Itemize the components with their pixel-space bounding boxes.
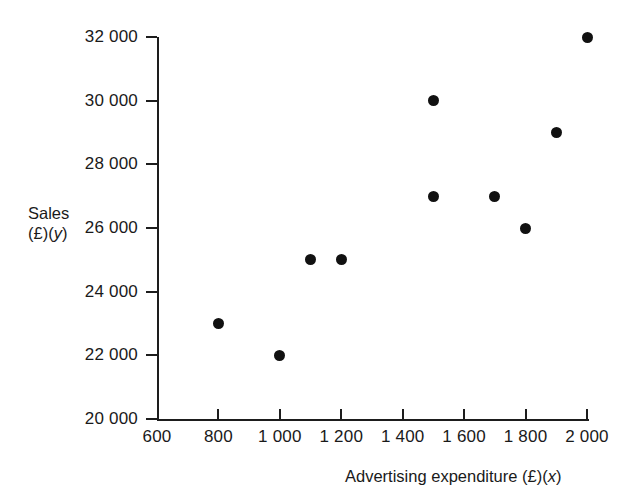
y-axis-title-line1: Sales	[28, 203, 69, 223]
x-axis-tick	[525, 409, 527, 420]
y-axis-title: Sales (£)(y)	[28, 203, 69, 243]
x-axis-tick	[340, 409, 342, 420]
data-point	[582, 32, 593, 43]
x-axis-tick	[463, 409, 465, 420]
y-axis-tick	[146, 418, 157, 420]
y-axis-title-line2: (£)(y)	[28, 223, 69, 243]
data-point	[274, 350, 285, 361]
x-axis-title-close: )	[556, 467, 562, 485]
scatter-chart: 20 00022 00024 00026 00028 00030 00032 0…	[0, 0, 630, 503]
y-axis-variable: y	[54, 224, 62, 242]
x-axis-title: Advertising expenditure (£)(x)	[345, 466, 561, 486]
y-axis-tick	[146, 163, 157, 165]
data-point	[213, 318, 224, 329]
y-axis-tick-label: 22 000	[38, 346, 138, 363]
y-axis-tick-label: 30 000	[38, 92, 138, 109]
x-axis-tick	[279, 409, 281, 420]
data-point	[489, 191, 500, 202]
plot-area: 20 00022 00024 00026 00028 00030 00032 0…	[0, 0, 630, 503]
x-axis-tick	[586, 409, 588, 420]
y-axis-tick	[146, 100, 157, 102]
y-axis-tick-label: 24 000	[38, 283, 138, 300]
y-axis-tick	[146, 227, 157, 229]
x-axis-tick	[402, 409, 404, 420]
data-point	[428, 191, 439, 202]
y-axis-tick-label: 28 000	[38, 155, 138, 172]
y-axis-tick-label: 32 000	[38, 28, 138, 45]
data-point	[551, 127, 562, 138]
y-axis-tick	[146, 354, 157, 356]
x-axis-tick-label: 2 000	[542, 428, 630, 446]
x-axis-tick	[217, 409, 219, 420]
y-axis-tick	[146, 291, 157, 293]
data-point	[428, 95, 439, 106]
y-axis-tick-label: 20 000	[38, 410, 138, 427]
y-axis-tick	[146, 36, 157, 38]
x-axis-title-text: Advertising expenditure (£)(	[345, 467, 548, 485]
data-point	[520, 223, 531, 234]
data-point	[336, 254, 347, 265]
x-axis-variable: x	[548, 467, 556, 485]
data-point	[305, 254, 316, 265]
